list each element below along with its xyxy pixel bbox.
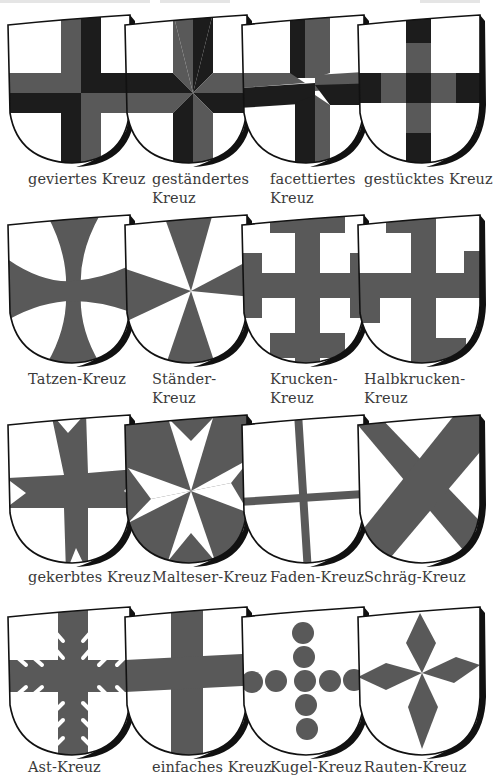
cross-label: Tatzen-Kreuz <box>28 370 126 389</box>
cross-label-line: gekerbtes Kreuz <box>28 568 151 587</box>
shield-geviert-icon <box>6 13 138 165</box>
cross-label: geständertesKreuz <box>152 170 249 208</box>
cross-label-line: Rauten-Kreuz <box>364 758 466 777</box>
cross-label: gekerbtes Kreuz <box>28 568 151 587</box>
cross-label-line: geviertes Kreuz <box>28 170 146 189</box>
cross-label: Rauten-Kreuz <box>364 758 466 777</box>
cross-label: Schräg-Kreuz <box>364 568 466 587</box>
shield-gekerbt-icon <box>6 413 138 565</box>
cross-label-line: Kreuz <box>270 389 338 408</box>
cut-off-header <box>0 0 489 6</box>
cross-label-line: einfaches Kreuz <box>152 758 271 777</box>
shield-ast-icon <box>6 605 138 757</box>
cross-label: Krucken-Kreuz <box>270 370 338 408</box>
cross-label-line: facettiertes <box>270 170 356 189</box>
cross-label-line: Kreuz <box>152 189 249 208</box>
cross-label-line: Kreuz <box>152 389 216 408</box>
cross-label: einfaches Kreuz <box>152 758 271 777</box>
cross-label-line: Kreuz <box>270 189 356 208</box>
shield-einfach-icon <box>123 605 255 757</box>
cross-label: Kugel-Kreuz <box>270 758 362 777</box>
cross-label-line: Ast-Kreuz <box>28 758 101 777</box>
cross-label-line: gestücktes Kreuz <box>364 170 493 189</box>
cross-label-line: Tatzen-Kreuz <box>28 370 126 389</box>
cross-label-line: Krucken- <box>270 370 338 389</box>
cross-label-line: Kreuz <box>364 389 465 408</box>
shield-gestueckt-icon <box>356 13 488 165</box>
cross-label-line: Faden-Kreuz <box>270 568 364 587</box>
cross-label-line: Malteser-Kreuz <box>152 568 267 587</box>
shield-halbkrucken-icon <box>356 213 488 365</box>
shield-facettiert-icon <box>240 13 372 165</box>
cross-label: gestücktes Kreuz <box>364 170 493 189</box>
shield-tatzen-icon <box>6 213 138 365</box>
shield-staender-icon <box>123 213 255 365</box>
cross-label: facettiertesKreuz <box>270 170 356 208</box>
cross-label: geviertes Kreuz <box>28 170 146 189</box>
cross-label-line: Kugel-Kreuz <box>270 758 362 777</box>
cross-label: Ständer-Kreuz <box>152 370 216 408</box>
shield-faden-icon <box>240 413 372 565</box>
cross-label: Halbkrucken-Kreuz <box>364 370 465 408</box>
cross-label: Faden-Kreuz <box>270 568 364 587</box>
shield-rauten-icon <box>356 605 488 757</box>
shield-schraeg-icon <box>356 413 488 565</box>
cross-label-line: geständertes <box>152 170 249 189</box>
cross-label-line: Schräg-Kreuz <box>364 568 466 587</box>
shield-malteser-icon <box>123 413 255 565</box>
cross-label-line: Ständer- <box>152 370 216 389</box>
cross-label: Malteser-Kreuz <box>152 568 267 587</box>
cross-label-line: Halbkrucken- <box>364 370 465 389</box>
cross-label: Ast-Kreuz <box>28 758 101 777</box>
shield-kugel-icon <box>240 605 372 757</box>
shield-krucken-icon <box>240 213 372 365</box>
shield-gestaendert-icon <box>123 13 255 165</box>
